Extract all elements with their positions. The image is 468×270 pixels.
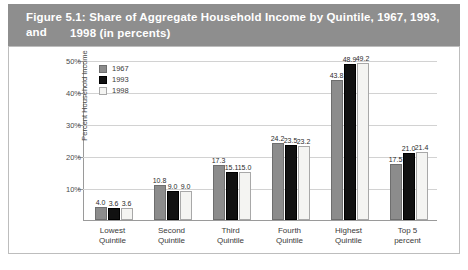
figure-title-bar: Figure 5.1: Share of Aggregate Household…: [8, 4, 460, 46]
chart-panel: 10%20%30%40%50% Percent Household Income…: [8, 46, 460, 254]
bar: [167, 191, 179, 220]
bar-value-label: 15.0: [238, 164, 252, 171]
bar-group: 17.521.021.4: [379, 61, 438, 220]
bar: [95, 207, 107, 220]
x-axis-label-line: Quintile: [276, 236, 303, 246]
bar-value-label: 23.2: [297, 138, 311, 145]
bars-layer: 4.03.63.610.89.09.017.315.115.024.223.52…: [84, 61, 437, 220]
bar: [108, 208, 120, 220]
bar: [121, 208, 133, 220]
y-axis-tick-label: 50%: [47, 57, 81, 66]
x-axis-label-line: Second: [158, 226, 185, 236]
y-axis-tick-label: 30%: [47, 121, 81, 130]
x-axis-category-label: FourthQuintile: [276, 226, 303, 246]
bar-group: 43.848.949.2: [320, 61, 379, 220]
bar-value-label: 17.5: [389, 156, 403, 163]
bar: [180, 191, 192, 220]
bar: [357, 63, 369, 220]
bar-value-label: 17.3: [212, 157, 226, 164]
bar-value-label: 9.0: [181, 183, 191, 190]
bar-group: 4.03.63.6: [84, 61, 143, 220]
bar: [285, 145, 297, 220]
y-axis-tick-label: 20%: [47, 153, 81, 162]
bar: [239, 172, 251, 220]
x-axis-label-line: Highest: [335, 226, 362, 236]
bar: [226, 172, 238, 220]
bar-value-label: 4.0: [96, 199, 106, 206]
bar: [416, 152, 428, 220]
x-axis-category-label: SecondQuintile: [158, 226, 185, 246]
figure-container: Figure 5.1: Share of Aggregate Household…: [8, 4, 460, 262]
bar-value-label: 21.4: [415, 144, 429, 151]
x-axis-label-line: Quintile: [217, 236, 244, 246]
y-axis-tick-label: 10%: [47, 185, 81, 194]
bar-group: 10.89.09.0: [143, 61, 202, 220]
bar-value-label: 49.2: [356, 55, 370, 62]
x-axis-label-line: Quintile: [99, 236, 126, 246]
bar-group: 24.223.523.2: [261, 61, 320, 220]
plot-area: 10%20%30%40%50% Percent Household Income…: [83, 61, 437, 221]
bar-value-label: 9.0: [168, 183, 178, 190]
x-axis-category-label: HighestQuintile: [335, 226, 362, 246]
y-axis-tick-label: 40%: [47, 89, 81, 98]
x-axis-label-line: Fourth: [276, 226, 303, 236]
x-axis-label-line: Lowest: [99, 226, 126, 236]
bar: [213, 165, 225, 220]
bar-value-label: 21.0: [402, 145, 416, 152]
bar: [403, 153, 415, 220]
bar: [344, 64, 356, 220]
bar: [390, 164, 402, 220]
x-axis-label-line: Quintile: [158, 236, 185, 246]
x-axis-category-label: ThirdQuintile: [217, 226, 244, 246]
bar-value-label: 43.8: [330, 72, 344, 79]
figure-title-line-2: 1998 (in percents): [70, 26, 450, 41]
bar-value-label: 15.1: [225, 164, 239, 171]
bar: [298, 146, 310, 220]
bar-value-label: 3.6: [109, 200, 119, 207]
bar: [272, 143, 284, 220]
bar: [154, 185, 166, 220]
bar-group: 17.315.115.0: [202, 61, 261, 220]
bar: [331, 80, 343, 220]
bar-value-label: 23.5: [284, 137, 298, 144]
x-axis-label-line: Top 5: [394, 226, 421, 236]
x-axis-label-line: Third: [217, 226, 244, 236]
bar-value-label: 3.6: [122, 200, 132, 207]
x-axis-label-line: percent: [394, 236, 421, 246]
x-axis-label-line: Quintile: [335, 236, 362, 246]
bar-value-label: 10.8: [153, 177, 167, 184]
x-axis-category-label: Top 5percent: [394, 226, 421, 246]
x-axis-category-label: LowestQuintile: [99, 226, 126, 246]
bar-value-label: 48.9: [343, 56, 357, 63]
bar-value-label: 24.2: [271, 135, 285, 142]
